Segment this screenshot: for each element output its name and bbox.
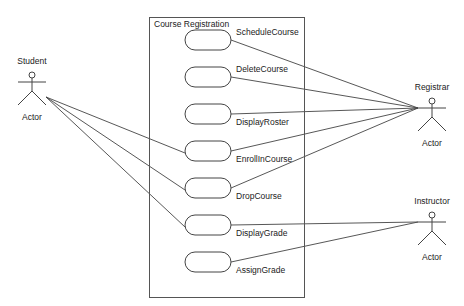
association-student-drop [46, 97, 185, 190]
actor-figures [18, 72, 446, 245]
use-case-roster[interactable] [185, 104, 231, 124]
actor-stereotype: Actor [22, 112, 42, 122]
actor-name: Instructor [414, 196, 449, 206]
association-student-enroll [46, 97, 185, 153]
association-registrar-enroll [231, 108, 418, 151]
association-registrar-delete [231, 77, 418, 108]
use-case-delete[interactable] [185, 67, 231, 87]
association-student-displaygrade [46, 97, 185, 227]
use-case-diagram-canvas [0, 0, 464, 306]
use-case-label: DisplayRoster [236, 117, 289, 127]
actor-instructor-icon[interactable] [418, 212, 446, 245]
use-case-enroll[interactable] [185, 141, 231, 161]
use-case-label: EnrollInCourse [236, 154, 292, 164]
use-case-displaygrade[interactable] [185, 215, 231, 235]
use-case-label: ScheduleCourse [236, 27, 299, 37]
actor-registrar-icon[interactable] [418, 98, 446, 131]
actor-stereotype: Actor [422, 138, 442, 148]
actor-name: Student [17, 56, 46, 66]
actor-stereotype: Actor [422, 252, 442, 262]
association-registrar-roster [231, 108, 418, 114]
use-case-ellipses [185, 30, 231, 272]
association-lines [46, 40, 418, 262]
use-case-label: DropCourse [236, 191, 282, 201]
use-case-assigngrade[interactable] [185, 252, 231, 272]
use-case-label: DeleteCourse [236, 64, 288, 74]
use-case-label: AssignGrade [236, 265, 285, 275]
actor-name: Registrar [415, 82, 449, 92]
system-title: Course Registration [154, 19, 229, 29]
use-case-label: DisplayGrade [236, 228, 288, 238]
use-case-drop[interactable] [185, 178, 231, 198]
association-instructor-displaygrade [231, 222, 418, 225]
use-case-schedule[interactable] [185, 30, 231, 50]
actor-student-icon[interactable] [18, 72, 46, 105]
association-registrar-schedule [231, 40, 418, 108]
